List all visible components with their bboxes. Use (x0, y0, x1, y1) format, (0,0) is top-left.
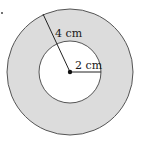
center-point (68, 70, 72, 74)
corner-dot (1, 12, 3, 14)
annulus-diagram: 4 cm 2 cm (0, 0, 141, 142)
outer-radius-label: 4 cm (55, 27, 83, 40)
inner-radius-label: 2 cm (75, 59, 103, 72)
